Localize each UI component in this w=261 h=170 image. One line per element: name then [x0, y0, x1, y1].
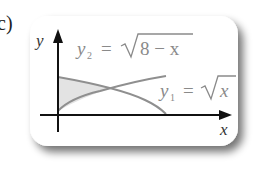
- svg-text:2: 2: [87, 50, 92, 61]
- svg-text:=: =: [101, 38, 112, 59]
- x-axis-label: x: [219, 120, 228, 139]
- diagram: y x y 2 = 8 − x y 1 = x: [0, 0, 261, 170]
- svg-text:y: y: [75, 38, 86, 59]
- svg-text:1: 1: [170, 92, 175, 103]
- svg-text:=: =: [183, 80, 194, 101]
- svg-text:8 − x: 8 − x: [140, 38, 180, 59]
- svg-text:y: y: [158, 80, 169, 101]
- y-axis-label: y: [34, 31, 44, 50]
- svg-text:x: x: [219, 80, 229, 101]
